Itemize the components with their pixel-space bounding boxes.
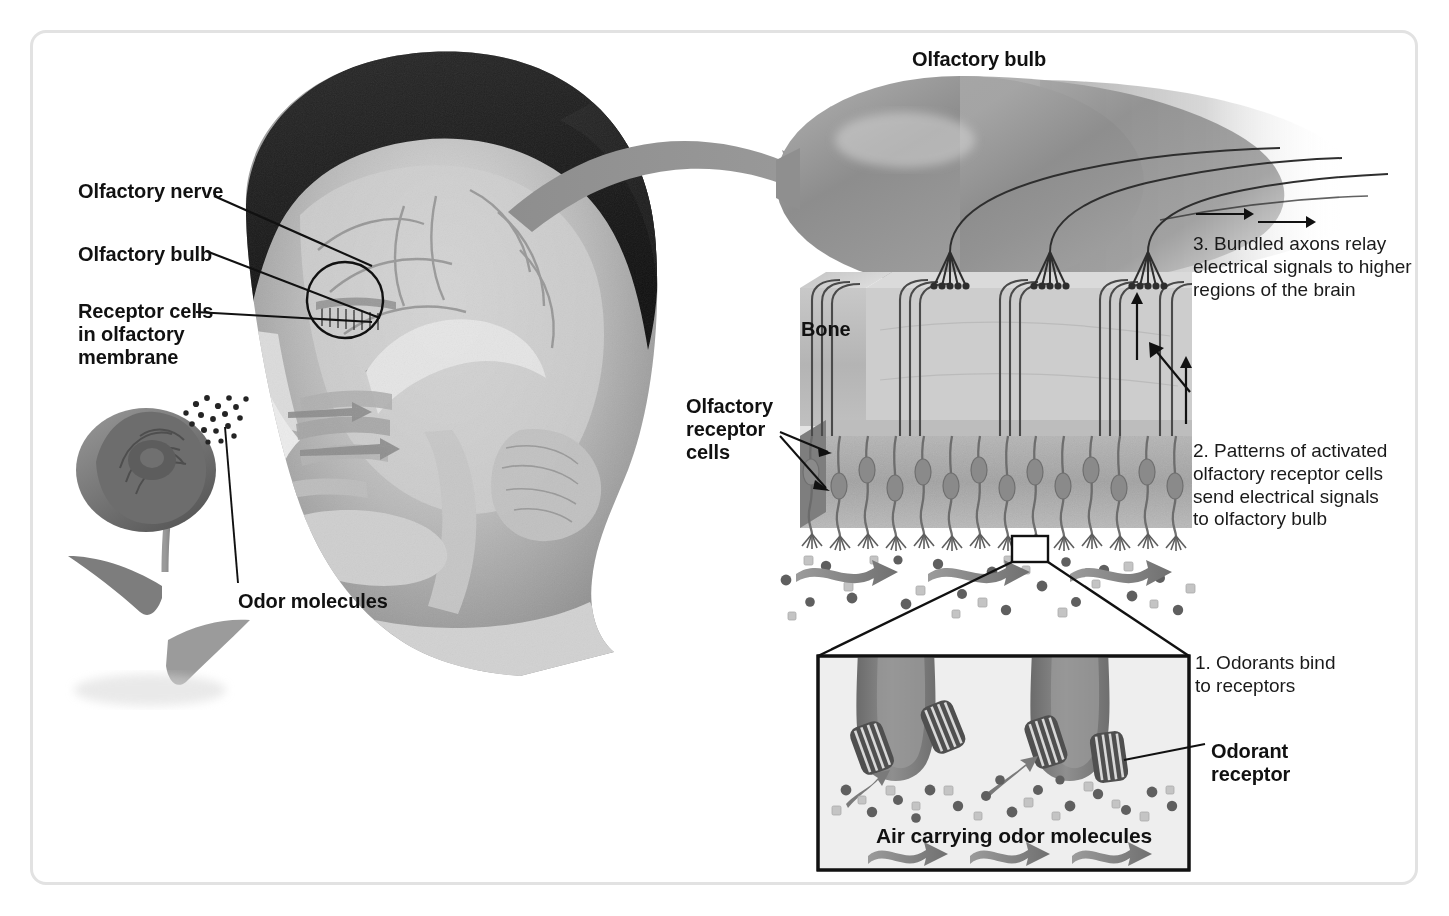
- step-2-text: 2. Patterns of activated olfactory recep…: [1193, 440, 1443, 531]
- label-receptor-cells-in-olfactory-membrane: Receptor cells in olfactory membrane: [78, 300, 213, 370]
- airflow-arrows-upper: [796, 560, 1172, 586]
- step-3-text: 3. Bundled axons relay electrical signal…: [1193, 233, 1443, 301]
- bone-slab: [800, 272, 1192, 440]
- odor-molecule-field: [781, 555, 1195, 620]
- label-bone: Bone: [801, 318, 851, 341]
- label-olfactory-bulb-left: Olfactory bulb: [78, 243, 212, 266]
- label-olfactory-receptor-cells: Olfactory receptor cells: [686, 395, 773, 465]
- label-odorant-receptor: Odorant receptor: [1211, 740, 1290, 786]
- label-olfactory-bulb-title: Olfactory bulb: [912, 48, 1046, 71]
- step-1-text: 1. Odorants bind to receptors: [1195, 652, 1435, 698]
- rose-illustration: [68, 395, 250, 706]
- label-odor-molecules: Odor molecules: [238, 590, 388, 613]
- label-olfactory-nerve: Olfactory nerve: [78, 180, 223, 203]
- olfactory-diagram: Olfactory nerve Olfactory bulb Receptor …: [0, 0, 1449, 916]
- caption-air-carrying-odor-molecules: Air carrying odor molecules: [864, 824, 1164, 848]
